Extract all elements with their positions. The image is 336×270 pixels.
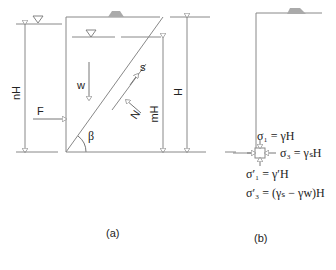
N-label: N — [128, 108, 142, 121]
water-level-icon — [33, 16, 43, 23]
ground-hatch-icon — [108, 11, 124, 17]
s-label: s — [140, 61, 146, 73]
beta-label: β — [88, 129, 94, 143]
soil-element — [255, 148, 265, 158]
water-level-icon — [86, 30, 96, 37]
caption-a: (a) — [106, 227, 119, 239]
beta-arc — [78, 136, 86, 152]
mH-label: mH — [148, 105, 160, 122]
s-arrow — [130, 74, 138, 85]
slope-stability-diagram: nH s N w F β mH H — [0, 0, 336, 270]
sigma3-equation: σ₃ = γₛH — [280, 146, 322, 160]
H-label: H — [172, 88, 184, 96]
panel-b: σ₁ = γH σ₃ = γₛH σ′₁ = γ′H σ′₃ = (γₛ − γ… — [233, 8, 325, 244]
nH-label: nH — [10, 86, 22, 100]
F-label: F — [37, 105, 44, 117]
sigma1-effective-equation: σ′₁ = γ′H — [246, 167, 289, 181]
panel-a: nH s N w F β mH H — [10, 11, 236, 239]
sigma1-equation: σ₁ = γH — [257, 129, 295, 143]
ground-hatch-icon — [287, 8, 306, 14]
sigma3-effective-equation: σ′₃ = (γₛ − γw)H — [246, 186, 325, 200]
caption-b: (b) — [254, 232, 267, 244]
w-label: w — [76, 79, 85, 91]
